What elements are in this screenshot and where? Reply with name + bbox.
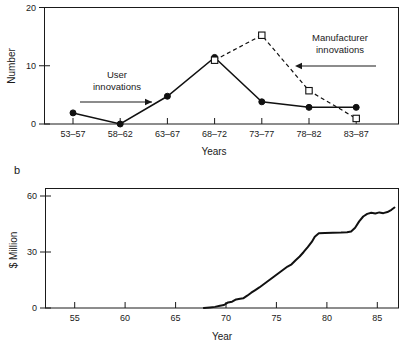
panel-b-xtick-label-85: 85 <box>372 313 382 323</box>
series-line-cumulative-sales <box>204 208 395 308</box>
panel-a-ytick-label-0: 0 <box>31 119 36 129</box>
panel-a-xtick-label-6: 83–87 <box>344 129 369 139</box>
annotation-user-innovations: User innovations <box>80 69 152 105</box>
panel-a-ytick-label-20: 20 <box>26 3 36 13</box>
data-point-manufacturer-4 <box>259 32 265 38</box>
series-cumulative-sales <box>204 208 395 308</box>
panel-b-xtick-label-75: 75 <box>271 313 281 323</box>
panel-a-chart: 0 10 20 Number 53–57 58–62 63–67 68–72 7… <box>0 0 411 160</box>
annotation-user-arrow-icon <box>80 99 152 105</box>
panel-b-ytick-label-30: 30 <box>27 247 37 257</box>
panel-b-chart: b 0 30 60 $ Million <box>0 160 411 359</box>
panel-b-xtick-label-60: 60 <box>120 313 130 323</box>
data-point-user-6 <box>353 104 359 110</box>
panel-letter-b: b <box>14 164 20 176</box>
data-point-user-1 <box>117 121 123 127</box>
annotation-manufacturer-innovations: Manufacturer innovations <box>295 32 376 69</box>
panel-b-ytick-label-60: 60 <box>27 191 37 201</box>
data-point-user-0 <box>70 110 76 116</box>
annotation-user-line1: User <box>107 69 127 80</box>
panel-b-xtick-label-80: 80 <box>322 313 332 323</box>
panel-b-xtick-label-55: 55 <box>70 313 80 323</box>
panel-b-plot-frame <box>46 189 399 309</box>
panel-a-xtick-label-5: 78–82 <box>296 129 321 139</box>
annotation-manufacturer-line1: Manufacturer <box>312 32 368 43</box>
panel-b-y-axis: 0 30 60 <box>27 191 51 313</box>
data-point-manufacturer-3 <box>211 57 217 63</box>
data-point-manufacturer-6 <box>353 115 359 121</box>
panel-a-svg: 0 10 20 Number 53–57 58–62 63–67 68–72 7… <box>0 0 411 160</box>
figure-root: 0 10 20 Number 53–57 58–62 63–67 68–72 7… <box>0 0 411 359</box>
annotation-manufacturer-line2: innovations <box>316 44 364 55</box>
panel-b-xtick-label-65: 65 <box>171 313 181 323</box>
panel-a-xtick-label-0: 53–57 <box>60 129 85 139</box>
data-point-manufacturer-5 <box>306 88 312 94</box>
panel-a-xtick-label-3: 68–72 <box>202 129 227 139</box>
panel-b-x-axis: 55 60 65 70 75 80 85 <box>70 302 383 323</box>
annotation-user-line2: innovations <box>93 81 141 92</box>
panel-b-ytick-label-0: 0 <box>32 303 37 313</box>
panel-a-y-axis-title: Number <box>6 48 17 84</box>
panel-a-y-axis: 0 10 20 <box>26 3 50 129</box>
panel-b-svg: b 0 30 60 $ Million <box>0 160 411 359</box>
panel-b-y-axis-title: $ Million <box>8 232 19 269</box>
annotation-manufacturer-arrow-icon <box>295 63 376 69</box>
data-point-user-5 <box>306 104 312 110</box>
panel-b-x-axis-title: Year <box>212 331 233 342</box>
panel-a-ytick-label-10: 10 <box>26 61 36 71</box>
data-point-user-2 <box>164 93 170 99</box>
panel-a-x-axis-title: Years <box>201 146 226 157</box>
panel-a-xtick-label-2: 63–67 <box>155 129 180 139</box>
data-point-user-4 <box>259 99 265 105</box>
panel-b-xtick-label-70: 70 <box>221 313 231 323</box>
panel-a-xtick-label-4: 73–77 <box>249 129 274 139</box>
panel-a-xtick-label-1: 58–62 <box>108 129 133 139</box>
